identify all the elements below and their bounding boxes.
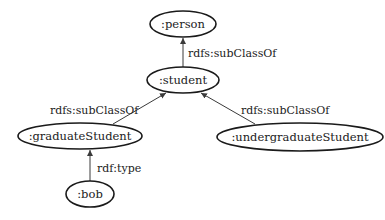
edge-label: rdf:type xyxy=(97,162,141,175)
edge-graduatestudent-to-student: rdfs:subClassOf xyxy=(50,93,166,124)
node-label: :person xyxy=(161,17,205,31)
node-graduatestudent: :graduateStudent xyxy=(18,123,142,149)
node-undergraduatestudent: :undergraduateStudent xyxy=(217,123,383,151)
node-bob: :bob xyxy=(66,181,114,207)
rdf-diagram: rdfs:subClassOf rdfs:subClassOf rdfs:sub… xyxy=(0,0,385,220)
edge-label: rdfs:subClassOf xyxy=(241,104,330,117)
edge-bob-to-graduatestudent: rdf:type xyxy=(90,150,141,181)
node-student: :student xyxy=(147,67,219,93)
edge-label: rdfs:subClassOf xyxy=(188,47,277,60)
node-label: :bob xyxy=(77,187,103,201)
edge-label: rdfs:subClassOf xyxy=(50,104,139,117)
node-person: :person xyxy=(150,11,216,37)
node-label: :graduateStudent xyxy=(29,129,132,143)
edge-undergraduatestudent-to-student: rdfs:subClassOf xyxy=(201,93,330,124)
node-label: :student xyxy=(159,73,207,87)
edge-student-to-person: rdfs:subClassOf xyxy=(183,38,277,67)
node-label: :undergraduateStudent xyxy=(231,130,369,144)
